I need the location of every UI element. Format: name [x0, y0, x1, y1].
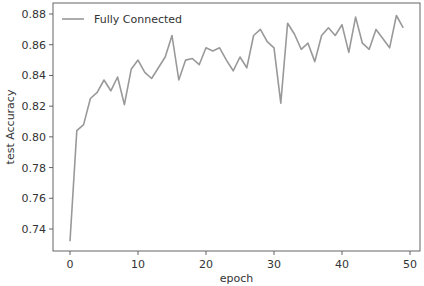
x-axis-ticks: 01020304050 [67, 251, 418, 271]
x-axis-label: epoch [220, 272, 254, 285]
y-axis-ticks: 0.740.760.780.800.820.840.860.88 [22, 8, 54, 236]
x-tick-label: 30 [267, 258, 281, 271]
y-tick-label: 0.74 [22, 223, 47, 236]
x-tick-label: 50 [403, 258, 417, 271]
y-tick-label: 0.88 [22, 8, 47, 21]
y-tick-label: 0.82 [22, 100, 47, 113]
y-axis-label: test Accuracy [4, 89, 17, 164]
y-tick-label: 0.76 [22, 192, 47, 205]
x-tick-label: 0 [67, 258, 74, 271]
x-tick-label: 20 [199, 258, 213, 271]
y-tick-label: 0.80 [22, 131, 47, 144]
line-chart: 01020304050 0.740.760.780.800.820.840.86… [0, 0, 424, 286]
y-tick-label: 0.78 [22, 162, 47, 175]
legend-label: Fully Connected [94, 13, 182, 26]
y-tick-label: 0.84 [22, 69, 47, 82]
y-tick-label: 0.86 [22, 39, 47, 52]
plot-frame [53, 3, 420, 251]
x-tick-label: 10 [131, 258, 145, 271]
x-tick-label: 40 [335, 258, 349, 271]
